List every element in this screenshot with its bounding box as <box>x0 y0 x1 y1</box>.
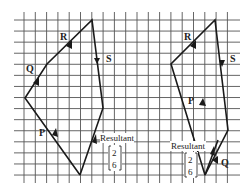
label-R: R <box>184 31 192 42</box>
label-S: S <box>106 53 112 64</box>
arrow-P-icon <box>52 128 58 137</box>
label-P: P <box>39 127 45 138</box>
resultant-y: 6 <box>188 167 193 177</box>
label-P: P <box>188 95 194 106</box>
resultant-x: 2 <box>188 155 193 165</box>
resultant-y: 6 <box>112 160 117 170</box>
resultant-x: 2 <box>112 148 117 158</box>
arrow-resultant-icon <box>210 146 215 156</box>
label-Q: Q <box>26 63 34 74</box>
vector-diagram: P Q R S Resultant 2 6 P Q R S Resultant … <box>0 0 245 190</box>
resultant-label: Resultant <box>100 133 134 143</box>
right-figure: P Q R S Resultant 2 6 <box>170 20 236 178</box>
arrow-Q-icon <box>212 156 218 164</box>
label-Q: Q <box>221 157 229 168</box>
grid <box>14 12 240 183</box>
arrow-S-icon <box>94 58 100 64</box>
label-R: R <box>60 31 68 42</box>
label-S: S <box>230 53 236 64</box>
resultant-label: Resultant <box>171 141 205 151</box>
